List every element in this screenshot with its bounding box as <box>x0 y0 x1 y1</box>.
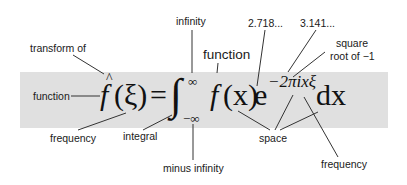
label-frequency-right: frequency <box>321 159 367 170</box>
formula-upper-limit: ∞ <box>188 75 197 88</box>
formula-xi-argument: (ξ) <box>114 80 147 110</box>
label-infinity: infinity <box>176 16 206 27</box>
label-minus-infinity: minus infinity <box>163 163 224 174</box>
formula-exp-base: e <box>254 80 267 110</box>
label-pi-value: 3.141... <box>300 18 335 29</box>
formula-f-hat: f <box>100 80 108 110</box>
formula-lower-limit: −∞ <box>183 112 200 125</box>
formula-equals: = <box>150 80 167 110</box>
label-frequency-left: frequency <box>50 133 96 144</box>
label-integral: integral <box>123 131 157 142</box>
label-function-left: function <box>33 91 70 102</box>
formula-x-argument: (x) <box>223 80 258 110</box>
label-transform-of: transform of <box>30 43 86 54</box>
formula-exponent: −2πixξ <box>268 73 316 90</box>
formula-differential: dx <box>316 80 346 110</box>
label-square-root-line1: square <box>330 38 374 49</box>
label-e-value: 2.718... <box>248 18 283 29</box>
label-space: space <box>259 133 287 144</box>
formula-f: f <box>210 80 218 110</box>
label-square-root-line2: root of −1 <box>330 51 375 62</box>
formula-integral: ∫ <box>170 73 182 117</box>
label-function-right: function <box>203 48 250 62</box>
